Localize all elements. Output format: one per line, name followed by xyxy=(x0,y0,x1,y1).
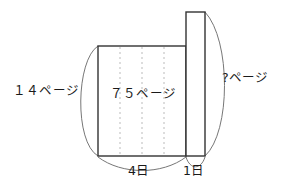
diagram-canvas: １４ページ ７５ページ ?ページ 4日 1日 xyxy=(0,0,295,191)
label-right-pages: ?ページ xyxy=(222,72,268,85)
label-left-pages: １４ページ xyxy=(13,85,79,98)
label-middle-pages: ７５ページ xyxy=(110,88,176,101)
tall-bar-rect xyxy=(186,12,205,156)
label-days-main: 4日 xyxy=(128,165,149,178)
label-days-one: 1日 xyxy=(183,165,204,178)
left-brace-arc xyxy=(81,46,98,156)
